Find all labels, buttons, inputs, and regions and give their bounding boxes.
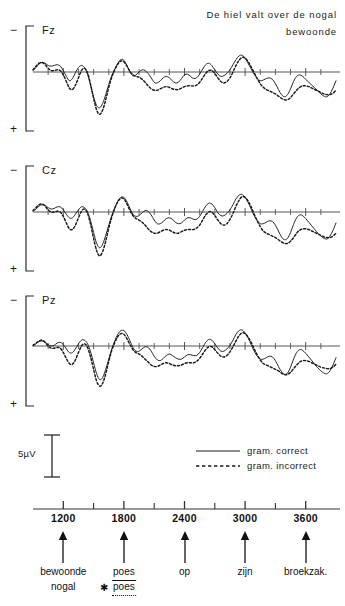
axis-tick-label-1200: 1200 <box>51 512 76 524</box>
legend-key-dashed-line <box>196 461 240 471</box>
amplitude-calibration-bar: 5µV <box>18 425 88 487</box>
trace-cz-incorrect <box>33 196 336 255</box>
legend: gram. correct gram. incorrect <box>196 443 316 473</box>
word-marker-labels: op <box>179 564 190 579</box>
axis-tick-label-3600: 3600 <box>293 512 318 524</box>
asterisk-icon: ✱ <box>100 580 108 595</box>
legend-entry-incorrect: gram. incorrect <box>196 458 316 473</box>
word-onset-arrow-icon <box>299 530 313 568</box>
waveform-panel-pz: − + Pz <box>0 288 345 418</box>
word-label: bewoonde <box>40 564 86 579</box>
trace-pz-incorrect <box>33 333 336 387</box>
word-label: poes <box>112 579 136 596</box>
calibration-label: 5µV <box>18 448 36 459</box>
erp-figure: De hiel valt over de nogal bewoonde − + … <box>0 0 345 606</box>
axis-tick-label-2400: 2400 <box>172 512 197 524</box>
word-label: zijn <box>238 564 253 579</box>
word-label: nogal <box>40 579 86 594</box>
word-marker-labels: broekzak. <box>284 564 327 579</box>
word-marker-labels: zijn <box>238 564 253 579</box>
time-axis: 12001800240030003600 <box>0 498 345 532</box>
waveform-plot-cz <box>0 158 345 283</box>
waveform-panel-fz: − + Fz <box>0 18 345 143</box>
waveform-plot-pz <box>0 288 345 418</box>
legend-key-solid-line <box>196 446 240 456</box>
word-onset-arrow-icon <box>56 530 70 568</box>
word-marker-labels: bewoondenogal <box>40 564 86 594</box>
word-onset-arrow-icon <box>238 530 252 568</box>
word-label: broekzak. <box>284 564 327 579</box>
word-onset-arrow-icon <box>117 530 131 568</box>
trace-cz-correct <box>33 194 336 247</box>
word-marker-labels: poes✱poes <box>112 564 136 594</box>
waveform-plot-fz <box>0 18 345 143</box>
legend-entry-correct: gram. correct <box>196 443 316 458</box>
trace-fz-incorrect <box>33 57 336 114</box>
legend-label-incorrect: gram. incorrect <box>247 460 316 471</box>
axis-tick-label-3000: 3000 <box>233 512 258 524</box>
axis-tick-label-1800: 1800 <box>112 512 137 524</box>
word-label: op <box>179 564 190 579</box>
trace-fz-correct <box>33 55 336 108</box>
waveform-panel-cz: − + Cz <box>0 158 345 283</box>
legend-label-correct: gram. correct <box>247 445 308 456</box>
word-onset-markers: bewoondenogalpoes✱poesopzijnbroekzak. <box>0 530 345 606</box>
word-onset-arrow-icon <box>178 530 192 568</box>
